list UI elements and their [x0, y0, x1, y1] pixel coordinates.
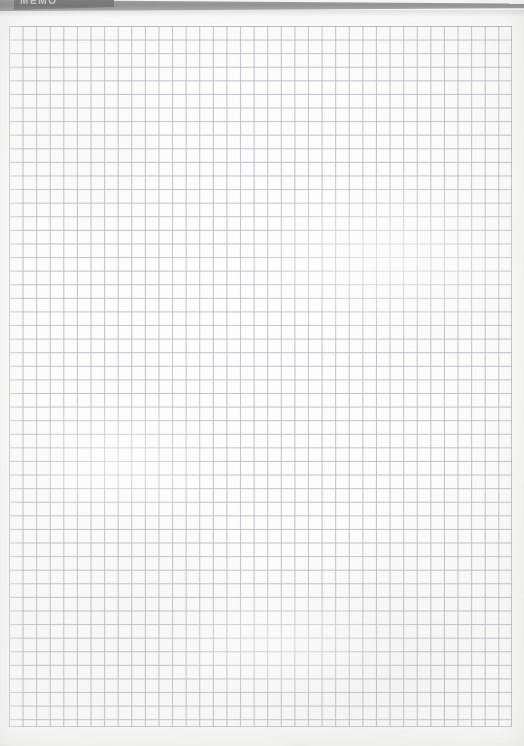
grid-border-right — [511, 26, 512, 727]
grid-border-left — [9, 26, 10, 727]
page-title: MEMO — [20, 0, 58, 6]
banner-scan-bleed — [0, 10, 524, 17]
page-header-banner: MEMO — [0, 0, 524, 16]
scanned-page: MEMO — [0, 0, 524, 746]
grid-lines-soft-pass — [9, 26, 512, 727]
grid-border-top — [9, 26, 512, 27]
grid-paper-area — [9, 26, 512, 727]
grid-border-bottom — [9, 726, 512, 727]
